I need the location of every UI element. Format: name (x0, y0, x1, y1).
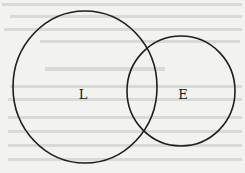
set-label-e: E (178, 87, 188, 102)
set-label-l: L (79, 87, 88, 102)
venn-svg: L E (0, 0, 245, 173)
venn-diagram-page: L E (0, 0, 245, 173)
